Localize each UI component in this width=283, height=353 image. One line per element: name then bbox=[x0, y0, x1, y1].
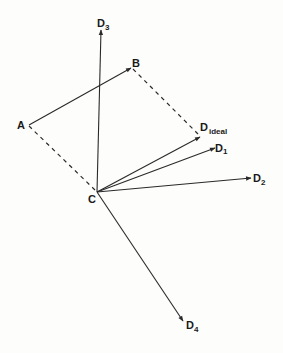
dashed-line-a-c bbox=[29, 126, 95, 190]
label-d3: D3 bbox=[97, 17, 110, 32]
label-d3-main: D bbox=[97, 17, 105, 29]
label-dideal-sub: ideal bbox=[209, 127, 227, 136]
vector-d3 bbox=[97, 30, 101, 192]
label-d2-main: D bbox=[253, 172, 261, 184]
label-dideal: Dideal bbox=[200, 121, 227, 136]
dashed-line-b-dideal bbox=[133, 69, 198, 134]
label-c: C bbox=[88, 193, 96, 205]
vector-d4 bbox=[97, 192, 183, 321]
label-d4: D4 bbox=[186, 319, 199, 334]
vector-diagram: A B C D3 Dideal D1 D2 D4 bbox=[0, 0, 283, 353]
label-d1: D1 bbox=[215, 142, 228, 156]
vector-d1 bbox=[97, 148, 215, 192]
vector-a-b bbox=[29, 68, 131, 125]
label-d4-main: D bbox=[186, 319, 194, 331]
label-dideal-main: D bbox=[200, 121, 208, 133]
label-d2-sub: 2 bbox=[261, 178, 266, 187]
label-d1-main: D bbox=[215, 142, 223, 154]
label-d2: D2 bbox=[253, 172, 266, 187]
label-d3-sub: 3 bbox=[105, 23, 110, 32]
label-b: B bbox=[132, 57, 140, 69]
label-a: A bbox=[17, 119, 25, 131]
label-d1-sub: 1 bbox=[223, 147, 228, 156]
label-d4-sub: 4 bbox=[194, 325, 199, 334]
